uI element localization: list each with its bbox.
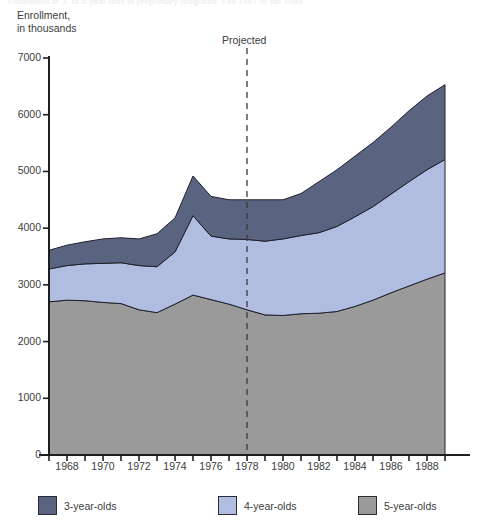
legend-item-5-year-olds[interactable]: 5-year-olds: [358, 496, 437, 515]
legend-label: 5-year-olds: [384, 500, 437, 512]
y-tick-label: 5000: [1, 164, 41, 176]
legend-label: 4-year-olds: [244, 500, 297, 512]
y-tick-label: 2000: [1, 335, 41, 347]
x-tick-label: 1976: [191, 460, 231, 472]
x-tick-label: 1968: [47, 460, 87, 472]
x-tick-label: 1978: [227, 460, 267, 472]
y-tick-label: 7000: [1, 51, 41, 63]
legend-swatch-icon: [38, 496, 57, 515]
legend-item-3-year-olds[interactable]: 3-year-olds: [38, 496, 117, 515]
legend-swatch-icon: [358, 496, 377, 515]
legend-item-4-year-olds[interactable]: 4-year-olds: [218, 496, 297, 515]
x-tick-label: 1982: [299, 460, 339, 472]
x-tick-label: 1972: [119, 460, 159, 472]
y-tick-label: 0: [1, 448, 41, 460]
y-tick-label: 3000: [1, 278, 41, 290]
x-tick-label: 1970: [83, 460, 123, 472]
x-tick-label: 1984: [335, 460, 375, 472]
y-tick-label: 1000: [1, 391, 41, 403]
x-tick-label: 1988: [407, 460, 447, 472]
legend-label: 3-year-olds: [64, 500, 117, 512]
y-tick-label: 6000: [1, 108, 41, 120]
legend-swatch-icon: [218, 496, 237, 515]
preprimary-enrollment-area-chart: Enrollment of 3- to 5-year-olds in prepr…: [0, 0, 481, 528]
y-tick-label: 4000: [1, 221, 41, 233]
x-tick-label: 1974: [155, 460, 195, 472]
x-tick-label: 1980: [263, 460, 303, 472]
chart-legend: 3-year-olds4-year-olds5-year-olds: [0, 493, 481, 523]
x-tick-label: 1986: [371, 460, 411, 472]
plot-area: [0, 0, 481, 528]
